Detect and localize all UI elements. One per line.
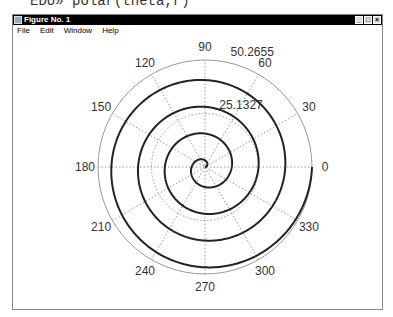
- angle-tick-label: 0: [322, 160, 329, 174]
- maximize-button[interactable]: □: [364, 16, 372, 24]
- menu-file[interactable]: File: [17, 25, 30, 36]
- figure-window: Figure No. 1 _ □ × File Edit Window Help…: [12, 14, 383, 310]
- figure-icon: [14, 16, 22, 24]
- menu-window[interactable]: Window: [64, 25, 92, 36]
- angle-tick-label: 210: [91, 220, 111, 234]
- title-bar: Figure No. 1 _ □ ×: [13, 15, 382, 25]
- command-line: EDU» polar(theta,r): [30, 0, 190, 9]
- polar-plot: 030609012015018021024027030033025.132750…: [13, 36, 382, 309]
- angle-tick-label: 300: [255, 264, 275, 278]
- angle-tick-label: 150: [91, 100, 111, 114]
- angle-tick-label: 240: [135, 264, 155, 278]
- radial-tick-label: 50.2655: [230, 45, 274, 59]
- spiral-series: [111, 80, 312, 267]
- menu-help[interactable]: Help: [102, 25, 118, 36]
- window-title: Figure No. 1: [24, 15, 70, 25]
- angle-tick-label: 30: [302, 100, 316, 114]
- minimize-button[interactable]: _: [355, 16, 363, 24]
- angle-tick-label: 270: [195, 280, 215, 294]
- angle-tick-label: 90: [198, 40, 212, 54]
- angle-tick-label: 180: [75, 160, 95, 174]
- close-button[interactable]: ×: [373, 16, 381, 24]
- menu-bar: File Edit Window Help: [13, 25, 382, 36]
- menu-edit[interactable]: Edit: [40, 25, 54, 36]
- angle-tick-label: 120: [135, 56, 155, 70]
- angle-tick-label: 330: [299, 220, 319, 234]
